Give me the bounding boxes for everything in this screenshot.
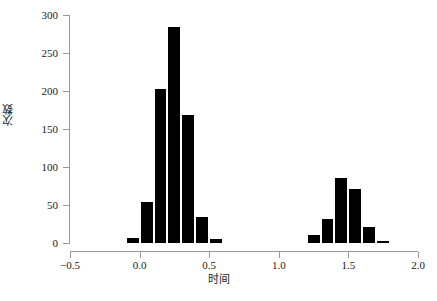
x-axis-tick-label: 1.5 [318, 260, 378, 271]
histogram-bar [126, 238, 140, 243]
x-axis-tick-label: 0.5 [179, 260, 239, 271]
y-axis-tick [63, 243, 69, 244]
y-axis-tick-label: 50 [18, 200, 58, 211]
histogram-bar [140, 202, 154, 243]
histogram-bar [181, 115, 195, 243]
x-axis-tick-label: 1.0 [249, 260, 309, 271]
x-axis-line [70, 251, 418, 252]
x-axis-tick [70, 252, 71, 258]
y-axis-tick [63, 53, 69, 54]
y-axis-tick-label: 0 [18, 238, 58, 249]
x-axis-tick-label: 0.0 [110, 260, 170, 271]
x-axis-tick [279, 252, 280, 258]
histogram-bar [195, 217, 209, 243]
y-axis-tick [63, 167, 69, 168]
x-axis-tick [418, 252, 419, 258]
y-axis-tick [63, 129, 69, 130]
x-axis-tick [348, 252, 349, 258]
x-axis-tick-label: −0.5 [40, 260, 100, 271]
y-axis-tick [63, 91, 69, 92]
y-axis-tick-label: 200 [18, 86, 58, 97]
plot-area [70, 15, 418, 243]
histogram-bar [334, 178, 348, 243]
x-axis-tick-label: 2.0 [388, 260, 437, 271]
histogram-bar [154, 89, 168, 243]
y-axis-tick [63, 205, 69, 206]
y-axis-tick-label: 250 [18, 48, 58, 59]
y-axis-tick [63, 15, 69, 16]
x-axis-title: 时间 [0, 273, 437, 285]
histogram-bar [167, 27, 181, 243]
y-axis-tick-label: 150 [18, 124, 58, 135]
histogram-bar [209, 239, 223, 243]
x-axis-tick [140, 252, 141, 258]
histogram-bar [376, 241, 390, 243]
x-axis-tick [209, 252, 210, 258]
histogram-bar [307, 235, 321, 243]
histogram-bar [348, 189, 362, 243]
histogram-bar [362, 227, 376, 243]
histogram-bar [321, 219, 335, 243]
y-axis-tick-label: 300 [18, 10, 58, 21]
histogram-figure: 050100150200250300 −0.50.00.51.01.52.0 次… [0, 0, 437, 301]
y-axis-tick-label: 100 [18, 162, 58, 173]
y-axis-title: 次数 [2, 104, 14, 126]
